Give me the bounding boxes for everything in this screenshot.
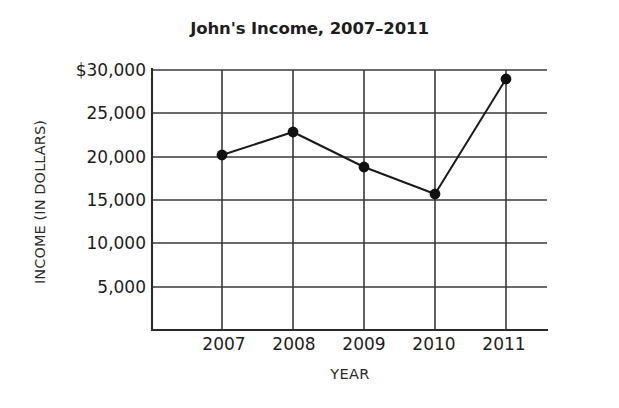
line-chart-figure: John's Income, 2007–2011 INCOME (IN DOLL… bbox=[0, 0, 619, 408]
plot-area bbox=[0, 0, 619, 408]
data-point-2008 bbox=[288, 127, 299, 138]
data-point-2011 bbox=[501, 74, 512, 85]
data-point-2009 bbox=[359, 162, 370, 173]
data-point-2007 bbox=[217, 150, 228, 161]
data-point-2010 bbox=[430, 189, 441, 200]
